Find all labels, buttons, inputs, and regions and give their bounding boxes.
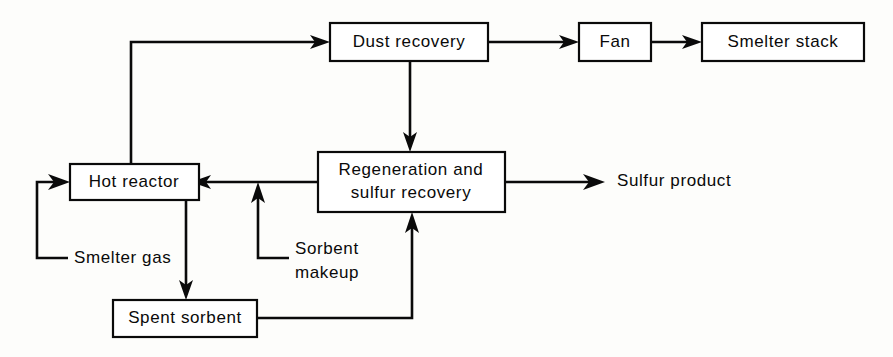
connector-smelter-gas-feed: [37, 174, 70, 258]
sorbent-makeup-label-line-2: makeup: [295, 263, 359, 282]
connector-dust-recovery-to-fan: [488, 35, 579, 49]
smelter-stack-label: Smelter stack: [728, 32, 839, 51]
sorbent-makeup-label-line-1: Sorbent: [295, 239, 359, 258]
smelter-gas-label: Smelter gas: [74, 248, 171, 267]
hot-reactor-label: Hot reactor: [89, 172, 180, 191]
regeneration-label-line-2: sulfur recovery: [351, 183, 471, 202]
node-fan[interactable]: Fan: [579, 23, 651, 61]
connector-fan-to-smelter-stack: [651, 35, 702, 49]
connector-sorbent-makeup-feed: [251, 182, 289, 258]
flow-diagram-canvas: Dust recovery Fan Smelter stack Hot reac…: [0, 0, 893, 357]
connector-regeneration-to-hot-reactor: [191, 175, 318, 189]
dust-recovery-label: Dust recovery: [353, 32, 466, 51]
connector-regeneration-to-sulfur-product: [505, 174, 605, 190]
node-regeneration-and-sulfur-recovery[interactable]: Regeneration and sulfur recovery: [318, 152, 505, 212]
connector-dust-recovery-to-regeneration: [403, 61, 417, 152]
node-hot-reactor[interactable]: Hot reactor: [70, 164, 199, 200]
sulfur-product-label: Sulfur product: [617, 171, 731, 190]
node-smelter-stack[interactable]: Smelter stack: [702, 23, 864, 61]
connector-hot-reactor-to-spent-sorbent: [179, 199, 193, 300]
regeneration-label-line-1: Regeneration and: [339, 160, 484, 179]
node-dust-recovery[interactable]: Dust recovery: [330, 23, 488, 61]
node-spent-sorbent[interactable]: Spent sorbent: [113, 300, 257, 337]
fan-label: Fan: [599, 32, 630, 51]
connector-hot-reactor-to-dust-recovery: [131, 35, 330, 166]
flow-diagram-svg: Dust recovery Fan Smelter stack Hot reac…: [0, 0, 893, 357]
spent-sorbent-label: Spent sorbent: [128, 308, 242, 327]
